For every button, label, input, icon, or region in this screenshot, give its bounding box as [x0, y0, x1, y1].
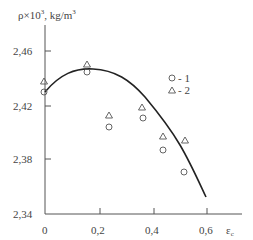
data-point-circle [106, 124, 112, 130]
data-point-triangle [160, 133, 167, 139]
y-tick-label: 2,38 [13, 153, 33, 165]
data-point-triangle [84, 61, 91, 67]
legend-label-1: - 1 [178, 72, 190, 84]
legend: - 1 - 2 [169, 72, 190, 96]
data-point-circle [140, 115, 146, 121]
x-tick-label: 0 [42, 224, 48, 236]
y-tick-label: 2,42 [13, 100, 32, 112]
data-point-triangle [41, 78, 48, 84]
data-point-circle [41, 89, 47, 95]
data-point-triangle [106, 112, 113, 118]
y-tick-label: 2,34 [13, 208, 33, 220]
legend-circle-icon [169, 75, 175, 81]
legend-triangle-icon [169, 87, 176, 93]
legend-label-2: - 2 [178, 84, 190, 96]
data-point-triangle [139, 104, 146, 110]
chart-canvas: 2,46 2,42 2,38 2,34 0 0,2 0,4 0,6 ρ×103,… [0, 0, 253, 240]
data-point-circle [181, 169, 187, 175]
y-axis-label: ρ×103, kg/m3 [18, 8, 76, 21]
data-point-circle [84, 69, 90, 75]
x-axis-label: εc [226, 224, 234, 238]
x-tick-label: 0,2 [91, 224, 105, 236]
y-tick-label: 2,46 [13, 45, 33, 57]
x-tick-label: 0,6 [199, 224, 213, 236]
data-point-circle [160, 147, 166, 153]
data-point-triangle [182, 137, 189, 143]
x-tick-label: 0,4 [145, 224, 159, 236]
